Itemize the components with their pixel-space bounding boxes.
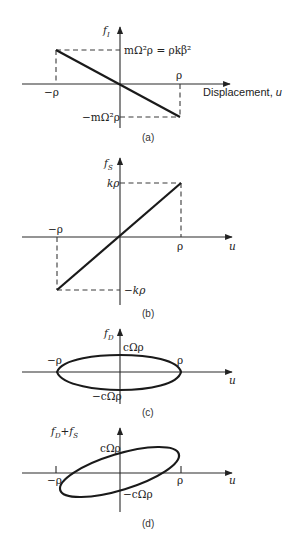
- x-tick-neg: −ρ: [48, 223, 63, 235]
- x-tick-pos: ρ: [177, 474, 183, 486]
- y-axis-label: fD: [103, 327, 114, 342]
- y-axis-label: fS: [103, 157, 113, 172]
- panel-a: fI mΩ²ρ = ρkβ² −mΩ²ρ −ρ ρ Displacement, …: [22, 24, 282, 143]
- x-axis-label: Displacement, u: [203, 86, 282, 98]
- x-axis-label: u: [229, 240, 236, 252]
- x-axis-label: u: [229, 474, 236, 486]
- y-top-label: kρ: [107, 177, 120, 189]
- caption: (b): [142, 308, 154, 319]
- y-bottom-label: −mΩ²ρ: [82, 111, 120, 123]
- y-bottom-label: −cΩρ: [123, 488, 153, 500]
- x-tick-neg: −ρ: [44, 86, 59, 98]
- diagram-canvas: fI mΩ²ρ = ρkβ² −mΩ²ρ −ρ ρ Displacement, …: [0, 0, 289, 546]
- x-axis-label: u: [229, 374, 236, 386]
- y-bottom-label: −cΩρ: [92, 390, 122, 402]
- x-tick-neg: −ρ: [47, 354, 62, 366]
- x-tick-pos: ρ: [176, 69, 182, 81]
- caption: (c): [142, 407, 154, 418]
- panel-c: fD cΩρ −ρ ρ u −cΩρ (c): [22, 327, 236, 418]
- panel-b: fS kρ −ρ ρ u −kρ (b): [22, 157, 236, 319]
- y-bottom-label: −kρ: [124, 284, 146, 296]
- x-tick-pos: ρ: [177, 240, 183, 252]
- y-top-label: cΩρ: [123, 341, 144, 353]
- y-axis-label: fI: [102, 24, 110, 39]
- y-axis-label: fD+fS: [50, 425, 78, 440]
- x-tick-pos: ρ: [177, 354, 183, 366]
- caption: (a): [142, 132, 154, 143]
- y-top-label: mΩ²ρ = ρkβ²: [124, 44, 191, 56]
- caption: (d): [142, 518, 154, 529]
- y-top-label: cΩρ: [100, 442, 121, 454]
- x-tick-neg: −ρ: [47, 474, 62, 486]
- panel-d: fD+fS cΩρ −ρ ρ u −cΩρ (d): [22, 425, 236, 529]
